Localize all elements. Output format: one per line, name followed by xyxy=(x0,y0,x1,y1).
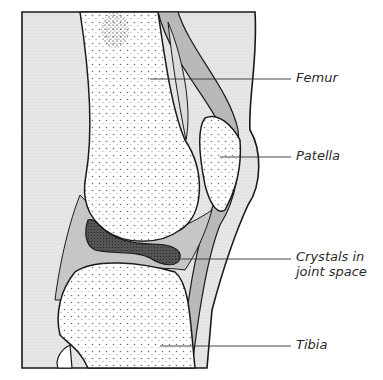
crystals-label: Crystals in joint space xyxy=(296,249,367,279)
tibia-bone xyxy=(57,263,195,368)
femur-label: Femur xyxy=(296,70,338,85)
knee-joint-diagram xyxy=(0,0,383,380)
tibia-label: Tibia xyxy=(296,337,327,352)
patella-label: Patella xyxy=(296,148,340,163)
